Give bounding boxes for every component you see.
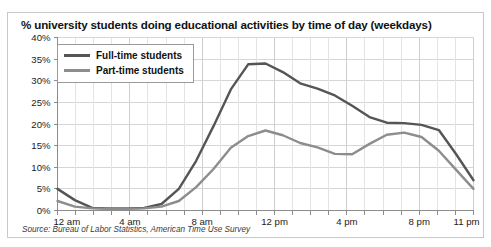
- svg-text:11 pm: 11 pm: [454, 216, 480, 227]
- legend-item-full-time: Full-time students: [64, 48, 184, 63]
- chart-figure: % university students doing educational …: [0, 0, 491, 247]
- svg-text:4 pm: 4 pm: [336, 216, 357, 227]
- plot-area: 0%5%10%15%20%25%30%35%40% 12 am4 am8 am1…: [0, 0, 491, 247]
- legend-swatch-part-time: [64, 69, 90, 72]
- data-series-lines: [58, 63, 474, 208]
- legend-swatch-full-time: [64, 54, 90, 57]
- line-chart-svg: 0%5%10%15%20%25%30%35%40% 12 am4 am8 am1…: [0, 0, 491, 247]
- chart-legend: Full-time students Part-time students: [57, 44, 194, 83]
- x-tick-marks: [58, 211, 474, 215]
- svg-text:25%: 25%: [31, 97, 51, 108]
- svg-text:20%: 20%: [31, 119, 51, 130]
- legend-item-part-time: Part-time students: [64, 63, 184, 78]
- svg-text:15%: 15%: [31, 140, 51, 151]
- legend-label-full-time: Full-time students: [96, 50, 182, 61]
- svg-text:40%: 40%: [31, 32, 51, 43]
- svg-text:12 pm: 12 pm: [261, 216, 288, 227]
- legend-label-part-time: Part-time students: [96, 65, 184, 76]
- chart-source-note: Source: Bureau of Labor Statistics, Amer…: [22, 225, 250, 234]
- svg-text:8 pm: 8 pm: [409, 216, 430, 227]
- svg-text:10%: 10%: [31, 162, 51, 173]
- svg-text:0%: 0%: [37, 205, 51, 216]
- svg-text:30%: 30%: [31, 75, 51, 86]
- svg-text:35%: 35%: [31, 54, 51, 65]
- y-axis-tick-labels: 0%5%10%15%20%25%30%35%40%: [31, 32, 57, 216]
- svg-text:5%: 5%: [37, 183, 51, 194]
